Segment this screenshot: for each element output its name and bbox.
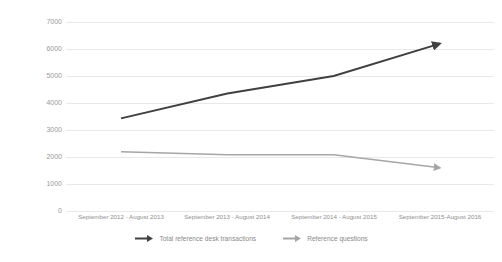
x-tick-label-2: September 2013 - August 2014 — [168, 212, 286, 221]
x-tick-label-1: September 2012 - August 2013 — [62, 212, 180, 221]
legend-label-2: Reference questions — [307, 234, 367, 243]
legend-item-reference-questions[interactable]: Reference questions — [282, 234, 367, 243]
legend-item-total-reference-desk-transactions[interactable]: Total reference desk transactions — [134, 234, 256, 243]
legend-label-1: Total reference desk transactions — [159, 234, 256, 243]
x-tick-label-3: September 2014 - August 2015 — [275, 212, 393, 221]
line-chart: Total Number of Transactions and Referen… — [0, 0, 502, 262]
arrow-right-icon — [134, 234, 154, 243]
x-tick-label-4: September 2015-August 2016 — [381, 212, 499, 221]
chart-legend: Total reference desk transactions Refere… — [0, 234, 502, 243]
arrow-right-icon — [282, 234, 302, 243]
series-line-reference-questions — [121, 152, 440, 168]
plot-area — [0, 0, 502, 262]
series-line-total-reference-desk-transactions — [121, 44, 440, 119]
